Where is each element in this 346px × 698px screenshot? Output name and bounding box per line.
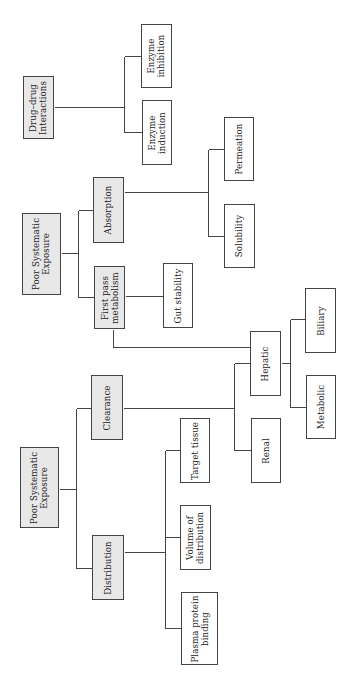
node-enzyme-induction: Enzyme induction [142, 100, 172, 165]
node-label: Enzyme induction [147, 112, 167, 154]
node-label: Metabolic [316, 385, 326, 429]
node-distribution: Distribution [92, 535, 124, 600]
node-label: Poor Systematic Exposure [30, 451, 50, 523]
node-label: Biliary [316, 306, 326, 335]
node-label: Renal [261, 438, 271, 463]
node-metabolic: Metabolic [306, 375, 336, 439]
node-solubility: Solubility [224, 204, 255, 268]
diagram-canvas: Drug–drug Interactions Enzyme inhibition… [0, 0, 346, 698]
node-label: Volume of distribution [186, 511, 206, 563]
node-label: Hepatic [261, 346, 271, 381]
node-label: Permeation [234, 124, 244, 175]
node-gut-stability: Gut stability [163, 263, 193, 328]
node-drug-drug-interactions: Drug–drug Interactions [23, 76, 54, 139]
node-label: First pass metabolism [100, 272, 120, 324]
node-permeation: Permeation [224, 117, 254, 181]
node-label: Plasma protein binding [190, 595, 210, 662]
node-label: Gut stability [173, 268, 183, 323]
node-label: Absorption [104, 186, 114, 235]
node-biliary: Biliary [305, 288, 336, 353]
node-enzyme-inhibition: Enzyme inhibition [141, 24, 172, 88]
node-first-pass-metabolism: First pass metabolism [94, 266, 125, 329]
node-label: Drug–drug Interactions [29, 80, 49, 134]
node-label: Solubility [235, 215, 245, 257]
node-volume-of-distribution: Volume of distribution [180, 505, 211, 570]
node-target-tissue: Target tissue [180, 418, 210, 483]
node-plasma-protein-binding: Plasma protein binding [181, 592, 218, 665]
node-poor-systematic-exposure-top: Poor Systematic Exposure [22, 213, 61, 295]
node-renal: Renal [251, 418, 281, 483]
node-label: Distribution [103, 541, 113, 595]
node-label: Target tissue [190, 421, 200, 479]
node-absorption: Absorption [93, 177, 124, 243]
node-label: Poor Systematic Exposure [32, 218, 52, 290]
node-clearance: Clearance [91, 375, 123, 440]
node-hepatic: Hepatic [250, 331, 281, 396]
node-label: Clearance [102, 385, 112, 430]
node-label: Enzyme inhibition [147, 35, 167, 78]
node-poor-systematic-exposure-bottom: Poor Systematic Exposure [20, 447, 59, 528]
